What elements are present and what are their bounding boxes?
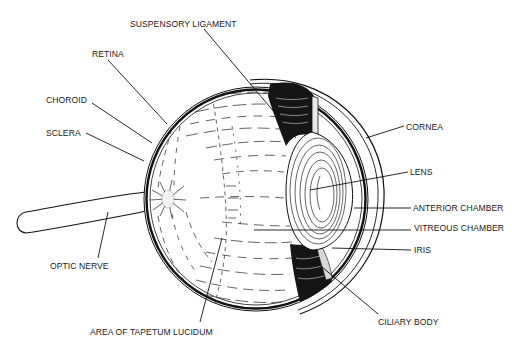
label-vitreous-chamber: VITREOUS CHAMBER: [414, 223, 504, 233]
label-retina: RETINA: [92, 49, 124, 59]
leader-cornea: [366, 126, 404, 138]
label-iris: IRIS: [414, 245, 431, 255]
label-choroid: CHOROID: [46, 95, 87, 105]
label-suspensory-ligament: SUSPENSORY LIGAMENT: [130, 19, 237, 29]
optic-nerve: [17, 192, 147, 233]
label-cornea: CORNEA: [406, 122, 443, 132]
label-optic-nerve: OPTIC NERVE: [50, 261, 109, 271]
label-sclera: SCLERA: [46, 128, 81, 138]
label-lens: LENS: [410, 167, 433, 177]
label-anterior-chamber: ANTERIOR CHAMBER: [413, 203, 504, 213]
label-tapetum-lucidum: AREA OF TAPETUM LUCIDUM: [90, 327, 213, 337]
optic-disc: [162, 190, 174, 208]
leader-ciliary-body: [316, 262, 378, 314]
leader-retina: [108, 60, 167, 124]
leader-choroid: [92, 103, 152, 143]
leader-sclera: [86, 133, 144, 161]
eye-diagram: [0, 0, 522, 350]
label-ciliary-body: CILIARY BODY: [378, 317, 438, 327]
